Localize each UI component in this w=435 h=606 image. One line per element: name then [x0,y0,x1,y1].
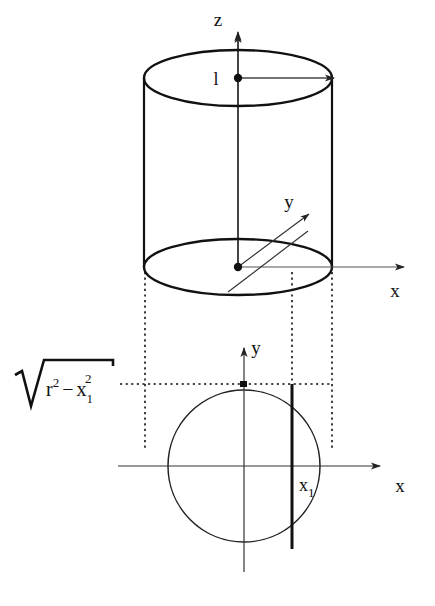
cylinder-projection-diagram: z x y l x y x1 r2−x12 [0,0,435,606]
z-axis-label: z [214,9,222,30]
sqrt-x-exponent: 2 [85,371,92,386]
y-axis-label-2d: y [251,337,261,358]
circle-group: x y x1 [118,337,405,572]
chord-x1-label: x1 [299,475,315,500]
chord-x1-subscript: 1 [308,485,315,500]
figure-root: z x y l x y x1 r2−x12 [0,0,435,606]
y-axis-3d-line [238,214,309,267]
x-axis-label-3d: x [390,280,400,301]
chord-x1-base: x [299,475,308,495]
bottom-center-dot [234,263,242,271]
cylinder-group: z x y l [144,9,404,301]
sqrt-r-exponent: 2 [53,375,60,390]
x-axis-label-2d: x [395,475,405,496]
sqrt-expression-label: r2−x12 [15,360,113,406]
top-center-dot [234,74,242,82]
projection-lines-group [120,272,332,450]
sqrt-minus-operator: − [62,378,73,400]
y-axis-label-3d: y [284,191,294,212]
sqrt-radicand: r2−x12 [46,371,93,406]
y-intercept-marker [240,381,247,387]
radius-length-label: l [213,69,218,89]
sqrt-x-subscript: 1 [86,391,93,406]
